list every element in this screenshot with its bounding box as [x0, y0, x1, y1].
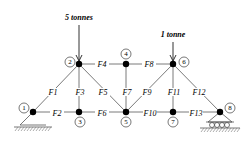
- node-number: 4: [124, 50, 128, 58]
- load-label: 1 tonne: [161, 30, 186, 39]
- joint-3: [76, 109, 82, 115]
- joint-5: [123, 109, 129, 115]
- member-label: F4: [97, 60, 107, 69]
- load-label: 5 tonnes: [65, 13, 93, 22]
- member-label: F8: [144, 60, 154, 69]
- joint-7: [170, 109, 176, 115]
- member-label: F7: [122, 88, 133, 97]
- joint-1: [30, 109, 36, 115]
- member-label: F11: [167, 88, 180, 97]
- member-label: F10: [143, 109, 157, 118]
- node-number: 7: [171, 118, 175, 126]
- member-label: F5: [98, 88, 108, 97]
- node-number: 8: [228, 104, 232, 112]
- member-label: F9: [142, 88, 152, 97]
- joint-8: [217, 109, 223, 115]
- node-number: 1: [22, 104, 26, 112]
- node-number: 2: [68, 58, 72, 66]
- node-number: 3: [78, 118, 82, 126]
- member-label: F12: [192, 88, 206, 97]
- member-label: F1: [48, 88, 58, 97]
- member-label: F3: [75, 88, 85, 97]
- joint-6: [170, 61, 176, 67]
- joint-2: [76, 61, 82, 67]
- member-label: F13: [189, 109, 203, 118]
- node-number: 5: [124, 118, 128, 126]
- member-label: F6: [97, 109, 107, 118]
- node-number: 6: [182, 58, 186, 66]
- truss-diagram: 5 tonnes1 tonne 12345678 F1F2F3F4F5F6F7F…: [0, 0, 252, 146]
- member-label: F2: [52, 109, 62, 118]
- joint-4: [123, 61, 129, 67]
